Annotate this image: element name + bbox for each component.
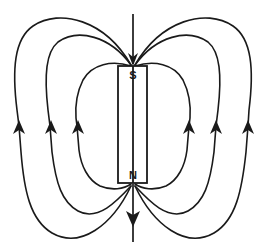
magnet-pole-label-north: N: [129, 169, 137, 181]
field-line-canvas: S N: [0, 0, 267, 251]
magnet-pole-label-south: S: [129, 69, 136, 81]
field-line-outer-left: [15, 18, 131, 238]
magnetic-field-diagram: S N: [0, 0, 267, 251]
field-line-outer-right: [135, 18, 251, 238]
